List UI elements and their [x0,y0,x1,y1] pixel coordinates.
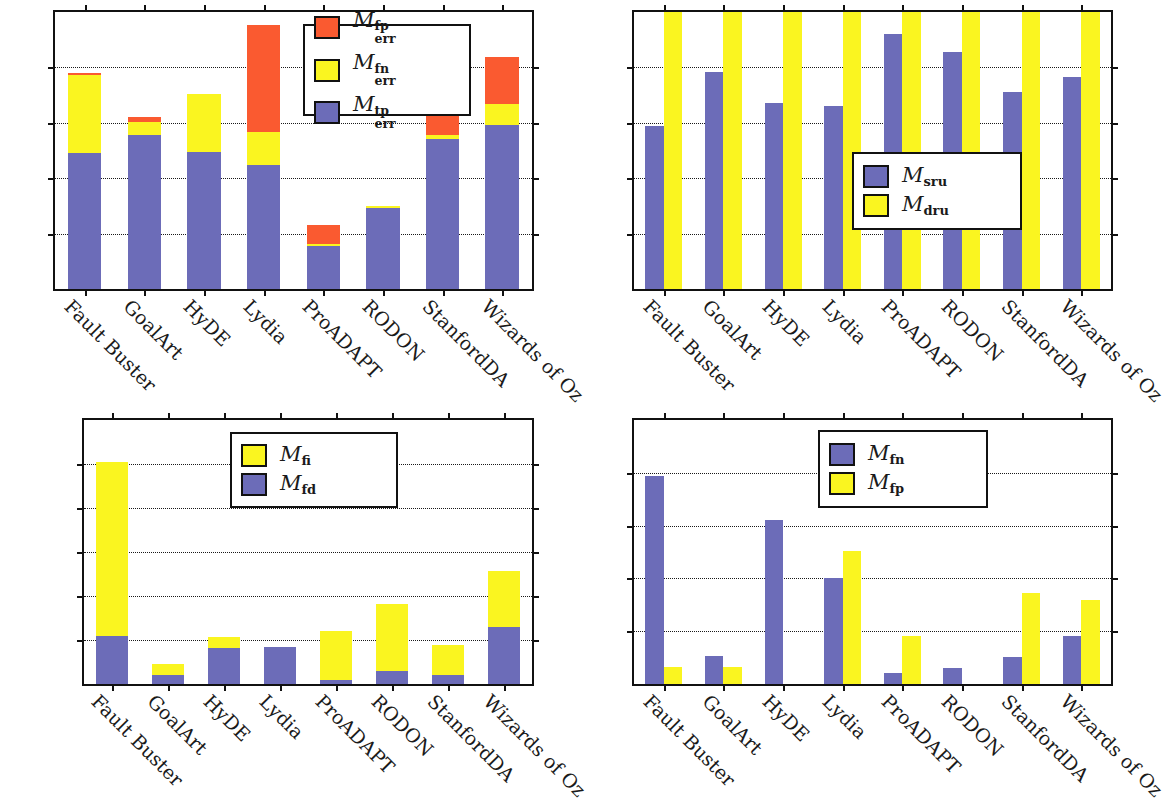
legend-swatch [314,59,340,82]
bar-segment-M-err-tp [128,135,161,289]
bar-M-sru [765,103,783,289]
y-tick-mark [77,552,84,554]
x-tick-label: Wizards of Oz [1057,295,1166,406]
y-tick-mark [77,508,84,510]
bar-M-sru [705,72,723,289]
false-rate-chart-frame: MfnMfp [632,418,1113,686]
y-tick-mark [77,596,84,598]
x-tick-label: Lydia [818,690,871,743]
bar-segment-M-err-fp [307,225,340,244]
error-cost-chart-frame: MfperrMfnerrMtperr [53,10,534,291]
y-tick-mark [1111,631,1118,633]
x-tick-mark [264,5,266,12]
x-tick-mark [448,413,450,420]
x-tick-mark [224,413,226,420]
y-tick-mark [48,178,55,180]
bar-segment-M-err-fn [366,206,399,208]
y-tick-mark [77,464,84,466]
bar-segment-M-err-fn [485,104,518,125]
legend-swatch [241,473,267,496]
bar-segment-M-err-tp [247,165,280,289]
x-tick-mark [1022,5,1024,12]
bar-M-dru [783,12,801,289]
bar-segment-M-err-fn [187,94,220,152]
utility-chart-plot-area [634,12,1111,289]
bar-M-fn [824,578,842,684]
bar-segment-M-fd [488,627,519,684]
bar-M-fp [843,551,861,684]
y-tick-mark [532,67,539,69]
legend-item: Mfperr [314,10,457,46]
bar-M-sru [1063,77,1081,289]
bar-segment-M-fd [264,647,295,684]
legend-label: Mfn [868,443,905,466]
x-tick-mark [1081,289,1083,296]
x-tick-mark [502,289,504,296]
y-tick-mark [1111,123,1118,125]
x-tick-mark [112,413,114,420]
bar-segment-M-err-tp [307,246,340,289]
bar-segment-M-err-tp [426,139,459,289]
bar-segment-M-fi [152,664,183,675]
bar-M-fn [705,656,723,684]
legend-label: Mfnerr [353,52,396,88]
x-tick-mark [1022,684,1024,691]
x-tick-label: Lydia [818,295,871,348]
bar-M-dru [723,12,741,289]
x-tick-mark [783,413,785,420]
y-tick-mark [627,178,634,180]
y-tick-mark [532,552,539,554]
x-tick-mark [504,413,506,420]
y-tick-mark [1111,578,1118,580]
y-tick-mark [627,578,634,580]
y-tick-mark [532,178,539,180]
x-tick-mark [392,684,394,691]
y-tick-mark [627,234,634,236]
x-tick-label: Lydia [255,690,308,743]
x-tick-mark [962,684,964,691]
stacked-bar [128,12,161,289]
legend-swatch [863,165,889,188]
x-tick-label: Wizards of Oz [479,690,590,801]
y-tick-mark [77,640,84,642]
x-tick-mark [783,289,785,296]
legend-swatch [829,472,855,495]
bar-M-fn [765,520,783,684]
false-rate-chart-legend: MfnMfp [818,430,988,508]
y-tick-mark [532,234,539,236]
x-tick-mark [843,5,845,12]
y-tick-mark [627,123,634,125]
legend-item: Mtperr [314,94,457,130]
x-tick-mark [843,413,845,420]
bar-segment-M-err-fn [426,135,459,139]
y-tick-mark [1111,67,1118,69]
gridline [84,640,532,641]
legend-label: Mfd [280,473,316,496]
x-tick-label: HyDE [199,690,255,746]
x-tick-mark [723,413,725,420]
bar-segment-M-err-fn [128,122,161,135]
y-tick-mark [48,123,55,125]
y-tick-mark [532,640,539,642]
bar-segment-M-err-fp [128,117,161,121]
x-tick-mark [168,413,170,420]
x-tick-mark [902,413,904,420]
x-tick-mark [448,684,450,691]
gridline [634,578,1111,579]
utility-chart-frame: MsruMdru [632,10,1113,291]
x-tick-mark [204,289,206,296]
x-tick-mark [204,5,206,12]
x-tick-mark [224,684,226,691]
gridline [55,234,532,235]
x-tick-mark [723,684,725,691]
x-tick-mark [783,5,785,12]
bar-segment-M-err-tp [68,153,101,289]
legend-label: Mfp [868,472,904,495]
stacked-bar [68,12,101,289]
gridline [634,526,1111,527]
y-tick-mark [1111,234,1118,236]
fault-count-chart-frame: MfiMfd [82,418,534,686]
error-cost-chart-legend: MfperrMfnerrMtperr [303,24,471,116]
x-tick-mark [723,5,725,12]
